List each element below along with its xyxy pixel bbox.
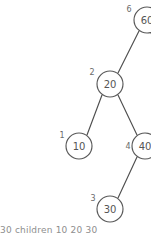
tree-diagram: 6 60 2 20 1 10 4 40 3 3 [0, 0, 151, 234]
edge-40-30 [118, 157, 137, 198]
node-value-label-40: 40 [139, 141, 151, 152]
node-value-label-10: 10 [73, 141, 86, 152]
tree-node-60[interactable]: 6 60 [126, 5, 151, 34]
node-index-label-60: 6 [126, 5, 131, 14]
edges-group [87, 31, 151, 198]
caption-text: 30 children 10 20 30 [0, 226, 151, 234]
node-index-label-20: 2 [89, 68, 94, 77]
node-index-label-10: 1 [59, 131, 64, 140]
node-index-label-40: 4 [125, 142, 130, 151]
diagram-canvas: 6 60 2 20 1 10 4 40 3 3 [0, 0, 151, 234]
node-index-label-30: 3 [90, 194, 95, 203]
edge-20-10 [87, 95, 102, 135]
edge-20-40 [118, 95, 137, 135]
node-value-label-30: 30 [104, 204, 117, 215]
node-value-label-60: 60 [141, 15, 151, 26]
nodes-group: 6 60 2 20 1 10 4 40 3 3 [59, 5, 151, 223]
node-value-label-20: 20 [104, 79, 117, 90]
tree-node-40[interactable]: 4 40 [125, 133, 151, 159]
edge-60-20 [118, 31, 139, 73]
